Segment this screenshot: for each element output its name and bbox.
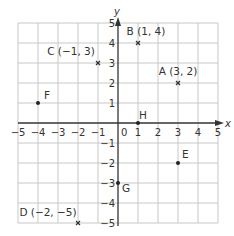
point-b: B (1, 4): [127, 25, 166, 45]
y-tick-label: −5: [100, 218, 115, 229]
x-tick-label: −3: [51, 127, 66, 138]
x-tick-label: −5: [11, 127, 26, 138]
x-axis-arrow-icon: [215, 120, 224, 126]
x-tick-label: 2: [155, 127, 161, 138]
point-label: A (3, 2): [159, 65, 198, 77]
x-axis-label: x: [224, 118, 231, 129]
y-axis-arrow-icon: [115, 17, 121, 26]
y-tick-label: 3: [109, 58, 115, 69]
x-tick-label: 4: [195, 127, 201, 138]
y-tick-label: 1: [109, 98, 115, 109]
dot-marker-icon: [136, 121, 140, 125]
point-label: G: [122, 182, 130, 194]
x-tick-label: −4: [31, 127, 46, 138]
y-tick-label: 2: [109, 78, 115, 89]
y-tick-label: 4: [109, 38, 115, 49]
y-axis-label: y: [113, 6, 121, 17]
point-d: D (−2, −5): [19, 206, 80, 225]
y-tick-label: 5: [109, 18, 115, 29]
x-tick-label: 5: [215, 127, 221, 138]
dot-marker-icon: [36, 101, 40, 105]
coordinate-plane: x y −5−4−3−2−1012345 54321−1−2−3−4−5 A (…: [0, 0, 234, 236]
point-label: D (−2, −5): [19, 206, 76, 218]
x-tick-label: −1: [91, 127, 106, 138]
point-c: C (−1, 3): [47, 45, 100, 65]
point-label: H: [139, 109, 147, 121]
y-tick-label: −4: [100, 198, 115, 209]
point-label: C (−1, 3): [47, 45, 95, 57]
y-tick-label: −3: [100, 178, 115, 189]
plotted-points: A (3, 2)B (1, 4)C (−1, 3)D (−2, −5)EFGH: [19, 25, 197, 225]
dot-marker-icon: [176, 161, 180, 165]
x-tick-label: −2: [71, 127, 86, 138]
y-tick-label: −1: [100, 138, 115, 149]
x-tick-label: 1: [135, 127, 141, 138]
point-label: B (1, 4): [127, 25, 166, 37]
point-label: E: [182, 148, 189, 160]
y-tick-label: −2: [100, 158, 115, 169]
x-tick-labels: −5−4−3−2−1012345: [11, 127, 222, 138]
x-tick-label: 0: [121, 127, 127, 138]
x-tick-label: 3: [175, 127, 181, 138]
dot-marker-icon: [116, 181, 120, 185]
point-label: F: [44, 89, 50, 101]
